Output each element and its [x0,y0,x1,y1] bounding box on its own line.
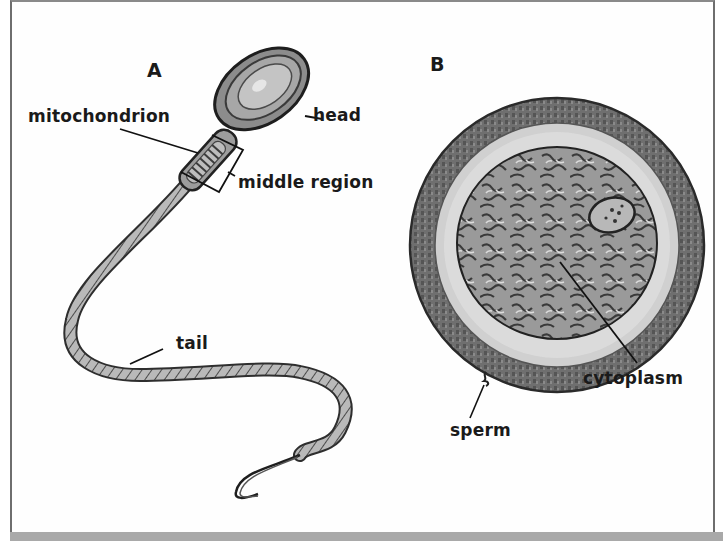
label-mitochondrion: mitochondrion [28,108,170,125]
leader-tail [130,349,163,364]
panel-label-a: A [147,61,162,80]
label-tail: tail [176,335,208,352]
leader-mitochondrion [120,129,198,153]
label-middle-region: middle region [238,174,373,191]
label-head: head [313,107,361,124]
label-cytoplasm: cytoplasm [583,370,683,387]
sperm-cell-illustration [70,31,345,498]
diagram-illustration [0,0,723,541]
label-sperm: sperm [450,422,511,439]
panel-label-b: B [430,55,445,74]
leader-sperm [470,385,484,418]
